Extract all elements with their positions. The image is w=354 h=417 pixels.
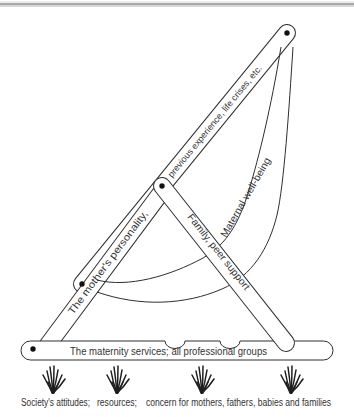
label-mothers-personality: The mother's personality,	[66, 208, 150, 316]
ground-caption: Society's attitudes; resources; concern …	[21, 397, 331, 408]
label-maternal-wellbeing: Maternal well-being	[218, 156, 273, 239]
pivot-dot-top	[284, 30, 289, 35]
label-family-peer-support: Family, peer support	[185, 211, 252, 292]
top-rule	[0, 1, 354, 7]
diagram-canvas: previous experience, life crises, etc. T…	[0, 0, 354, 417]
caption-attitudes: Society's attitudes;	[21, 397, 90, 408]
label-base-bar: The maternity services; all professional…	[70, 345, 267, 357]
pivot-dot-base	[30, 346, 35, 351]
label-previous-experience: previous experience, life crises, etc.	[166, 63, 264, 179]
deckchair-diagram: previous experience, life crises, etc. T…	[0, 0, 354, 417]
grass-tuft-icon	[107, 366, 129, 393]
grass-tuft-icon	[281, 366, 303, 393]
pivot-dot-joint	[159, 183, 164, 188]
grass-tuft-icon	[43, 366, 65, 393]
caption-resources: resources;	[97, 397, 137, 408]
grass-tuft-icon	[192, 366, 214, 393]
grass-row	[43, 366, 303, 393]
caption-concern: concern for mothers, fathers, babies and…	[146, 397, 331, 408]
